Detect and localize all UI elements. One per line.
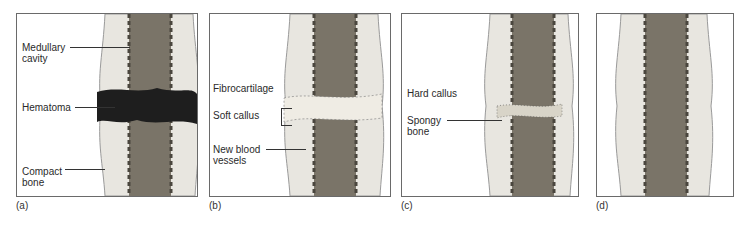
panel-c: Hard callus Spongy bone — [401, 13, 579, 197]
caption-a: (a) — [16, 200, 28, 211]
leader-line — [447, 120, 502, 121]
leader-line — [266, 149, 306, 150]
label-soft-callus: Soft callus — [213, 110, 259, 121]
label-hard-callus: Hard callus — [407, 88, 457, 99]
bracket — [281, 108, 292, 126]
bone-soft-callus-illustration — [210, 14, 390, 196]
leader-line — [75, 107, 115, 108]
label-medullary-cavity: Medullary cavity — [22, 42, 65, 64]
bone-hard-callus-illustration — [402, 14, 578, 196]
caption-c: (c) — [401, 200, 413, 211]
bone-remodeled-illustration — [597, 14, 733, 196]
leader-line — [65, 169, 105, 170]
label-new-blood-vessels: New blood vessels — [213, 144, 260, 166]
panel-b: Fibrocartilage Soft callus New blood ves… — [209, 13, 391, 197]
label-fibrocartilage: Fibrocartilage — [213, 83, 274, 94]
leader-line — [70, 47, 130, 48]
label-compact-bone: Compact bone — [22, 166, 62, 188]
panel-d — [596, 13, 734, 197]
caption-d: (d) — [596, 200, 608, 211]
label-hematoma: Hematoma — [22, 102, 71, 113]
panel-a: Medullary cavity Hematoma Compact bone — [16, 13, 198, 197]
caption-b: (b) — [209, 200, 221, 211]
label-spongy-bone: Spongy bone — [407, 115, 441, 137]
